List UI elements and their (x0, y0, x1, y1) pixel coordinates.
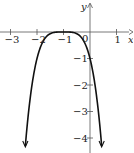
function-graph: −3−2−101−1−2−3−4xy (0, 0, 133, 153)
x-tick-label: 0 (82, 33, 88, 44)
x-tick-label: −3 (5, 34, 20, 45)
x-axis-label: x (128, 34, 133, 45)
tick-labels: −3−2−101−1−2−3−4xy (5, 1, 134, 144)
axes (0, 3, 133, 153)
y-axis-label: y (80, 1, 87, 12)
y-tick-label: −2 (73, 80, 88, 91)
x-tick-label: 1 (115, 34, 121, 45)
curve-plot (23, 32, 105, 147)
y-tick-label: −4 (73, 133, 88, 144)
x-tick-label: −2 (31, 34, 46, 45)
y-tick-label: −3 (73, 106, 88, 117)
x-tick-label: −1 (58, 34, 73, 45)
y-tick-label: −1 (73, 53, 88, 64)
